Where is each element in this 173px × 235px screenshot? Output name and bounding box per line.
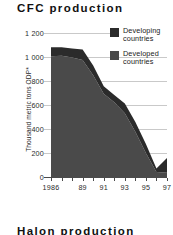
y-tick-400: 400 bbox=[16, 125, 44, 134]
legend-swatch-developing bbox=[110, 28, 119, 37]
legend-label-developed-line2: countries bbox=[123, 57, 154, 66]
x-tick-mark-1989 bbox=[83, 178, 84, 181]
x-tick-label-1995: 95 bbox=[142, 183, 150, 192]
y-tick-800: 800 bbox=[16, 77, 44, 86]
x-tick-mark-1988 bbox=[72, 178, 73, 181]
x-tick-mark-1993 bbox=[125, 178, 126, 181]
x-tick-mark-1997 bbox=[167, 178, 168, 181]
legend-label-developing: Developing countries bbox=[123, 27, 161, 44]
cfc-production-chart: CFC production Thousand metric tons ODP*… bbox=[0, 0, 173, 235]
y-tick-0: 0 bbox=[16, 173, 44, 182]
legend-item-developing: Developing countries bbox=[110, 27, 173, 44]
x-tick-mark-1995 bbox=[146, 178, 147, 181]
legend-label-developed: Developed countries bbox=[123, 50, 159, 67]
x-tick-mark-1987 bbox=[62, 178, 63, 181]
x-tick-label-1997: 97 bbox=[163, 183, 171, 192]
next-section-title: Halon production bbox=[17, 225, 135, 235]
x-tick-mark-1991 bbox=[104, 178, 105, 181]
legend-label-developing-line2: countries bbox=[123, 34, 154, 43]
x-tick-label-1989: 89 bbox=[78, 183, 86, 192]
x-tick-label-1991: 91 bbox=[100, 183, 108, 192]
x-tick-mark-1990 bbox=[93, 178, 94, 181]
y-tick-600: 600 bbox=[16, 101, 44, 110]
y-tick-1000: 1 000 bbox=[16, 53, 44, 62]
y-tick-200: 200 bbox=[16, 149, 44, 158]
y-axis-ticks: 1 200 1 000 800 600 400 200 0 bbox=[10, 0, 44, 200]
chart-legend: Developing countries Developed countries bbox=[110, 27, 173, 73]
x-tick-mark-1986 bbox=[51, 178, 52, 181]
legend-swatch-developed bbox=[110, 51, 119, 60]
x-tick-mark-1994 bbox=[135, 178, 136, 181]
x-tick-label-1986: 1986 bbox=[43, 183, 60, 192]
legend-item-developed: Developed countries bbox=[110, 50, 173, 67]
x-tick-label-1993: 93 bbox=[121, 183, 129, 192]
x-tick-mark-1996 bbox=[156, 178, 157, 181]
y-tick-1200: 1 200 bbox=[16, 29, 44, 38]
x-tick-mark-1992 bbox=[114, 178, 115, 181]
